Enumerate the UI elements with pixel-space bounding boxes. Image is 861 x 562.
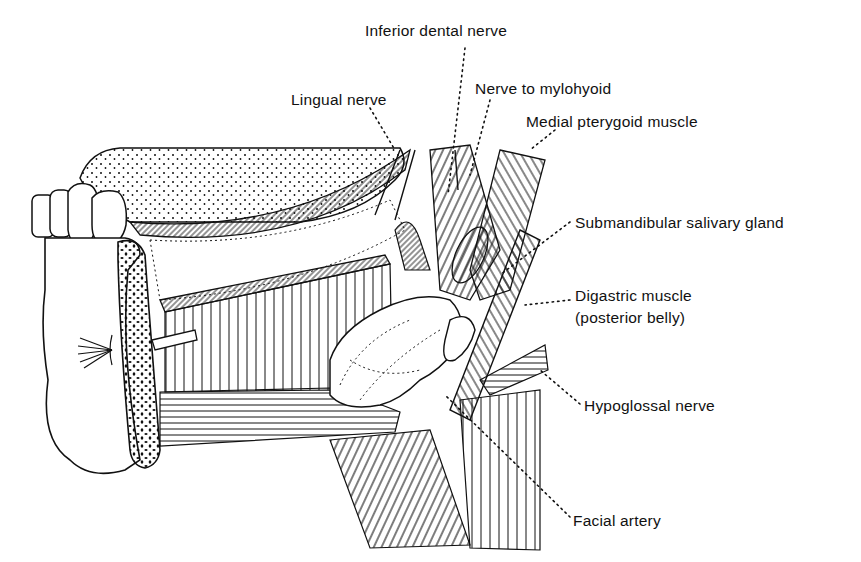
illustration [0, 0, 861, 562]
label-lingual-nerve: Lingual nerve [291, 91, 387, 109]
sternomastoid [460, 390, 540, 550]
label-nerve-to-mylohyoid: Nerve to mylohyoid [475, 80, 611, 98]
ganglion [395, 222, 430, 270]
label-digastric-muscle: Digastric muscle [575, 287, 692, 305]
label-submandibular-salivary-gland: Submandibular salivary gland [575, 214, 784, 232]
infrahyoid-muscles [330, 430, 470, 548]
label-digastric-posterior-belly: (posterior belly) [575, 309, 685, 327]
label-hypoglossal-nerve: Hypoglossal nerve [584, 397, 715, 415]
label-inferior-dental-nerve: Inferior dental nerve [365, 22, 507, 40]
teeth [32, 184, 126, 245]
label-medial-pterygoid-muscle: Medial pterygoid muscle [526, 113, 698, 131]
label-facial-artery: Facial artery [573, 512, 661, 530]
anatomy-figure: Inferior dental nerve Lingual nerve Nerv… [0, 0, 861, 562]
